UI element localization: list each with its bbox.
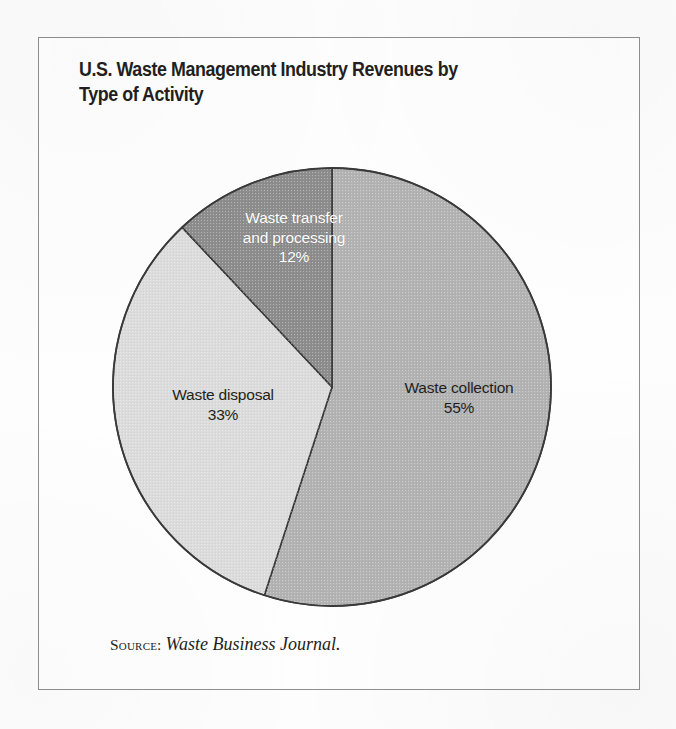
pie-slice-label-waste-disposal: Waste disposal 33% xyxy=(148,385,298,424)
pie-slice-label-waste-transfer-and-processing: Waste transfer and processing 12% xyxy=(222,208,366,267)
chart-figure-page: U.S. Waste Management Industry Revenues … xyxy=(0,0,676,729)
page-title: U.S. Waste Management Industry Revenues … xyxy=(79,57,509,107)
source-note: Source:Waste Business Journal. xyxy=(110,634,340,655)
source-note-publication: Waste Business Journal. xyxy=(166,634,341,654)
pie-slice-label-waste-collection: Waste collection 55% xyxy=(384,378,534,417)
source-note-label: Source: xyxy=(110,636,162,653)
